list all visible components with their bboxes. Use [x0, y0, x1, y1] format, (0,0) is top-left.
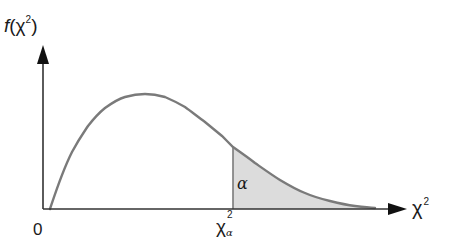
x-axis-label-exp: 2 — [424, 196, 430, 207]
y-axis-label-close: ) — [31, 15, 37, 36]
x-axis-label: χ2 — [412, 196, 429, 220]
critical-value-sub: α — [226, 227, 233, 238]
critical-value-var: χ — [216, 216, 226, 237]
y-axis-label-var: χ — [16, 15, 26, 36]
alpha-area-label: α — [237, 174, 248, 193]
critical-value-label: χ2α — [216, 216, 233, 238]
x-axis-arrow-icon — [388, 203, 407, 215]
shaded-tail-region — [233, 147, 375, 209]
density-curve — [50, 94, 375, 209]
x-axis-label-var: χ — [412, 197, 423, 219]
y-axis-arrow-icon — [37, 45, 49, 64]
origin-label: 0 — [33, 220, 42, 240]
critical-value-exp: 2 — [227, 209, 233, 220]
y-axis-label: f(χ2) — [4, 14, 37, 37]
